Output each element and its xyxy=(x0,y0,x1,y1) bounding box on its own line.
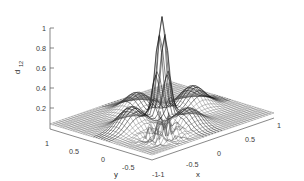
z-tick-label-0_8: 0.8 xyxy=(36,44,46,53)
y-tick-label-0: 0 xyxy=(101,155,105,164)
z-axis-label-main: d xyxy=(13,70,22,74)
y-axis-label: y xyxy=(114,170,118,179)
y-tick-label-1: 1 xyxy=(45,139,49,148)
z-tick-label-1: 1 xyxy=(42,24,46,33)
x-tick-label-0_5: 0.5 xyxy=(245,135,255,144)
x-axis-label: x xyxy=(196,170,200,179)
surface-plot-figure: 1 0.8 0.6 0.4 0.2 d 12 1 0.5 0 -0.5 -1 y xyxy=(0,0,304,181)
plot-canvas: 1 0.8 0.6 0.4 0.2 d 12 1 0.5 0 -0.5 -1 y xyxy=(0,0,304,181)
z-tick-label-0_4: 0.4 xyxy=(36,84,46,93)
y-tick-label-m0_5: -0.5 xyxy=(122,163,134,172)
x-tick-label-m0_5: -0.5 xyxy=(186,160,198,169)
x-tick-label-0: 0 xyxy=(217,149,221,158)
x-tick-label-1: 1 xyxy=(277,121,281,130)
z-axis-label-subscript: 12 xyxy=(18,61,24,67)
x-tick-label-m1: -1 xyxy=(158,170,164,179)
z-tick-label-0_2: 0.2 xyxy=(36,104,46,113)
z-tick-label-0_6: 0.6 xyxy=(36,64,46,73)
y-tick-label-0_5: 0.5 xyxy=(69,147,79,156)
